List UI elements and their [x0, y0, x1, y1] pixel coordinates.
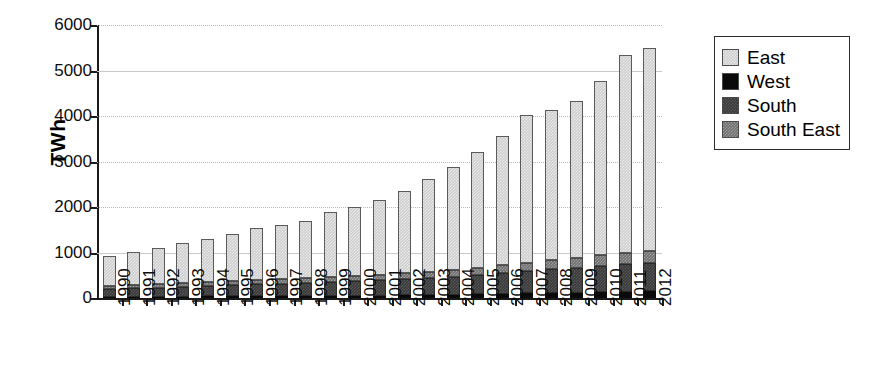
bar-segment-east [471, 152, 484, 267]
legend-label: South East [747, 120, 840, 139]
x-tick-label: 2010 [608, 268, 625, 306]
y-tick-mark [90, 253, 97, 255]
bar-2010 [594, 81, 607, 298]
bar-segment-south-east [594, 255, 607, 266]
gridline [97, 71, 662, 72]
x-tick-label: 2012 [657, 268, 674, 306]
y-tick-mark [90, 298, 97, 300]
y-tick-label: 4000 [54, 107, 92, 124]
bar-1990 [103, 256, 116, 298]
bar-segment-east [643, 48, 656, 251]
y-tick-label: 5000 [54, 62, 92, 79]
stacked-bar-chart: TWh 6000500040003000200010000 1990199119… [0, 0, 871, 368]
y-tick-label: 6000 [54, 16, 92, 33]
bar-segment-east [619, 55, 632, 253]
legend-label: South [747, 96, 797, 115]
legend-label: West [747, 72, 790, 91]
legend-swatch-icon [722, 73, 739, 90]
legend: EastWestSouthSouth East [714, 36, 850, 150]
x-tick-label: 1990 [116, 268, 133, 306]
bar-2011 [619, 55, 632, 298]
bar-segment-east [570, 101, 583, 258]
y-tick-mark [90, 116, 97, 118]
bar-segment-east [373, 200, 386, 275]
y-tick-mark [90, 25, 97, 27]
legend-item-south[interactable]: South [722, 94, 840, 116]
y-tick-label: 2000 [54, 198, 92, 215]
x-tick-label: 2001 [387, 268, 404, 306]
x-tick-label: 2007 [534, 268, 551, 306]
x-tick-label: 2009 [583, 268, 600, 306]
x-tick-label: 1994 [215, 268, 232, 306]
x-tick-label: 1998 [313, 268, 330, 306]
bar-segment-east [447, 167, 460, 271]
y-tick-label: 3000 [54, 153, 92, 170]
y-tick-mark [90, 71, 97, 73]
bar-segment-south-east [643, 251, 656, 263]
bar-segment-east [520, 115, 533, 262]
legend-label: East [747, 48, 785, 67]
bar-segment-south-east [570, 258, 583, 268]
bar-segment-east [545, 110, 558, 260]
x-tick-label: 1991 [141, 268, 158, 306]
legend-item-west[interactable]: West [722, 70, 840, 92]
legend-item-south-east[interactable]: South East [722, 118, 840, 140]
x-tick-label: 1996 [264, 268, 281, 306]
bar-segment-south [103, 289, 116, 297]
bar-segment-east [422, 179, 435, 272]
legend-swatch-icon [722, 49, 739, 66]
x-tick-label: 1992 [165, 268, 182, 306]
x-tick-label: 2011 [632, 269, 649, 306]
bar-segment-east [594, 81, 607, 255]
bar-segment-east [496, 136, 509, 265]
x-tick-label: 1993 [190, 268, 207, 306]
x-tick-label: 1999 [337, 268, 354, 306]
bar-2012 [643, 48, 656, 298]
bar-segment-south-east [619, 253, 632, 264]
bar-segment-east [398, 191, 411, 273]
x-tick-label: 2005 [485, 268, 502, 306]
y-tick-mark [90, 207, 97, 209]
bar-segment-east [103, 256, 116, 286]
gridline [97, 25, 662, 26]
x-tick-label: 2008 [558, 268, 575, 306]
x-tick-label: 2004 [460, 268, 477, 306]
x-tick-label: 1997 [288, 268, 305, 306]
legend-item-east[interactable]: East [722, 46, 840, 68]
plot-area [97, 25, 662, 298]
x-tick-label: 1995 [239, 268, 256, 306]
x-tick-label: 2000 [362, 268, 379, 306]
y-tick-label: 1000 [54, 244, 92, 261]
legend-swatch-icon [722, 97, 739, 114]
y-axis-tick-labels: 6000500040003000200010000 [0, 0, 92, 368]
x-tick-label: 2002 [411, 268, 428, 306]
x-tick-label: 2003 [436, 268, 453, 306]
bar-segment-east [348, 207, 361, 276]
y-tick-mark [90, 162, 97, 164]
bar-segment-south-east [103, 286, 116, 289]
legend-swatch-icon [722, 121, 739, 138]
x-tick-label: 2006 [509, 268, 526, 306]
